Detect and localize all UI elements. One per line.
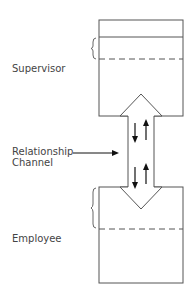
supervisor-brace-icon bbox=[91, 38, 96, 59]
relationship-channel-label-line2: Channel bbox=[12, 157, 53, 168]
relationship-channel-arrow bbox=[120, 94, 162, 209]
supervisor-label: Supervisor bbox=[12, 63, 65, 74]
relationship-channel-label-line1: Relationship bbox=[12, 146, 73, 157]
employee-label: Employee bbox=[12, 233, 62, 244]
employee-brace-icon bbox=[91, 188, 96, 228]
channel-pointer-arrow-icon bbox=[73, 150, 119, 156]
